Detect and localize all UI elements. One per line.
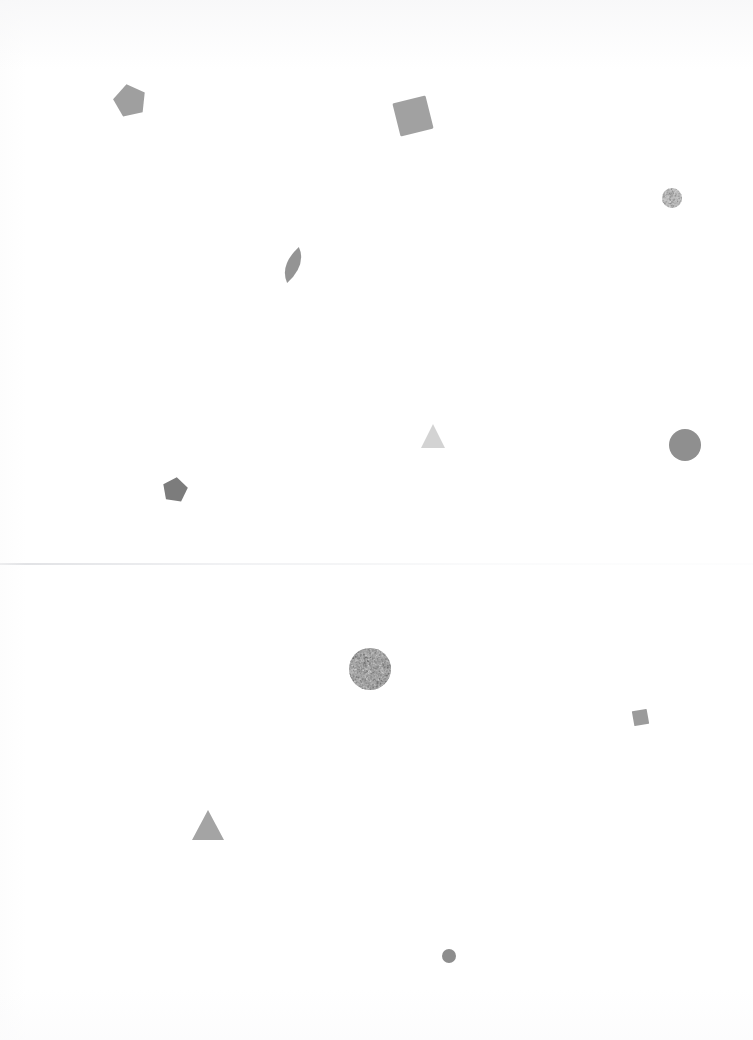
shape-leaf-leaf-upper-center — [275, 243, 311, 287]
shape-circle-circle-small-top-right — [662, 188, 682, 208]
shape-triangle-triangle-small-center — [421, 424, 445, 448]
shape-square-square-top-center — [392, 95, 433, 136]
paper-grain-overlay — [0, 0, 753, 1040]
shape-square-square-small-right — [632, 709, 649, 726]
page-canvas — [0, 0, 753, 1040]
shape-circle-dot-bottom-center — [442, 949, 456, 963]
shape-circle-circle-textured-center — [349, 648, 391, 690]
shape-pentagon-pentagon-top-left — [110, 81, 150, 121]
fold-line — [0, 563, 753, 565]
shape-circle-circle-large-right — [669, 429, 701, 461]
shape-pentagon-pentagon-mid-left — [160, 475, 189, 504]
shape-triangle-triangle-lower-left — [192, 810, 224, 840]
